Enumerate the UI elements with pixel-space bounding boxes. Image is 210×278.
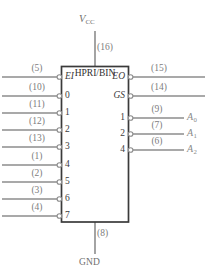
- port-label-weight-2: 2: [85, 129, 125, 139]
- signal-name-a0: A0: [187, 112, 197, 123]
- port-label-in0: 0: [65, 91, 70, 101]
- left-pin-number: (5): [16, 64, 58, 74]
- port-label-in5: 5: [65, 177, 70, 187]
- right-pin-number: (15): [140, 64, 178, 74]
- right-pin-number: (9): [138, 105, 176, 115]
- port-label-eo: EO: [85, 72, 125, 82]
- signal-name-a0-subscript: 0: [193, 116, 197, 123]
- signal-name-a1-subscript: 1: [193, 132, 197, 139]
- port-label-in2: 2: [65, 125, 70, 135]
- vcc-pin-number: (16): [97, 43, 121, 53]
- vcc-label-subscript: CC: [85, 18, 94, 26]
- right-pin-number: (14): [140, 83, 178, 93]
- left-pin-bubbles: [57, 75, 62, 219]
- port-label-ei: EI: [65, 72, 74, 82]
- gnd-label: GND: [79, 258, 100, 268]
- left-pin-number: (12): [16, 117, 58, 127]
- port-label-gs: GS: [85, 91, 125, 101]
- right-pin-number: (6): [138, 137, 176, 147]
- left-pin-number: (1): [16, 152, 58, 162]
- signal-name-a2: A2: [187, 144, 197, 155]
- left-pin-number: (3): [16, 186, 58, 196]
- port-label-weight-4: 4: [85, 145, 125, 155]
- port-label-in6: 6: [65, 194, 70, 204]
- port-label-in7: 7: [65, 211, 70, 221]
- port-label-weight-1: 1: [85, 113, 125, 123]
- port-label-in4: 4: [65, 160, 70, 170]
- right-pin-number: (7): [138, 121, 176, 131]
- left-pin-number: (2): [16, 169, 58, 179]
- port-label-in3: 3: [65, 142, 70, 152]
- left-pin-number: (11): [16, 100, 58, 110]
- signal-name-a2-subscript: 2: [193, 148, 197, 155]
- logic-symbol-diagram: VCC (16) HPRI/BIN (5) (10) (11) (12) (13…: [0, 0, 210, 278]
- port-label-in1: 1: [65, 108, 70, 118]
- signal-name-a1: A1: [187, 128, 197, 139]
- left-pin-number: (13): [16, 134, 58, 144]
- gnd-pin-number: (8): [97, 229, 121, 239]
- vcc-label: VCC: [79, 14, 95, 26]
- left-pin-number: (10): [16, 83, 58, 93]
- left-pin-number: (4): [16, 203, 58, 213]
